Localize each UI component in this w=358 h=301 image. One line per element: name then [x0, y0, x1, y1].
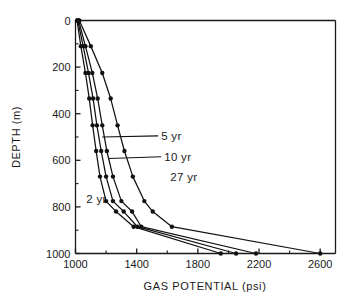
marker-10-yr	[254, 251, 258, 255]
marker-2-yr	[114, 209, 118, 213]
y-tick-label: 1000	[46, 248, 70, 260]
y-tick-label: 800	[52, 201, 70, 213]
leader-line-5-yr	[102, 136, 158, 137]
y-tick-label: 0	[64, 15, 70, 27]
chart-canvas: 10001400180022002600 02004006008001000 5…	[0, 0, 358, 301]
marker-27-yr	[77, 18, 81, 22]
series-annotations: 5 yr10 yr27 yr2 yr	[86, 130, 197, 205]
marker-10-yr	[100, 123, 104, 127]
marker-2-yr	[131, 225, 135, 229]
marker-27-yr	[151, 209, 155, 213]
x-axis-tick-labels: 10001400180022002600	[63, 258, 332, 270]
marker-10-yr	[130, 209, 134, 213]
marker-5-yr	[121, 209, 125, 213]
marker-27-yr	[318, 251, 322, 255]
series-line-5-yr	[78, 21, 236, 254]
series-annotation-5-yr: 5 yr	[161, 130, 181, 142]
series-annotation-2-yr: 2 yr	[86, 193, 106, 205]
marker-5-yr	[135, 225, 139, 229]
marker-2-yr	[98, 174, 102, 178]
marker-2-yr	[219, 251, 223, 255]
marker-5-yr	[104, 174, 108, 178]
x-axis-title: GAS POTENTIAL (psi)	[144, 280, 267, 292]
marker-27-yr	[122, 149, 126, 153]
series-annotation-27-yr: 27 yr	[170, 171, 197, 183]
x-axis-ticks	[76, 249, 321, 254]
marker-10-yr	[119, 199, 123, 203]
y-tick-label: 200	[52, 61, 70, 73]
x-tick-label: 1400	[124, 258, 148, 270]
marker-27-yr	[100, 71, 104, 75]
marker-27-yr	[115, 123, 119, 127]
marker-10-yr	[95, 96, 99, 100]
y-axis-ticks	[76, 21, 81, 254]
marker-10-yr	[105, 149, 109, 153]
marker-27-yr	[89, 44, 93, 48]
marker-27-yr	[108, 96, 112, 100]
marker-27-yr	[131, 174, 135, 178]
y-axis-tick-labels: 02004006008001000	[46, 15, 70, 260]
x-tick-label: 2200	[247, 258, 271, 270]
marker-27-yr	[170, 225, 174, 229]
gas-potential-depth-chart: 10001400180022002600 02004006008001000 5…	[0, 0, 358, 301]
marker-10-yr	[90, 71, 94, 75]
marker-10-yr	[83, 44, 87, 48]
leader-line-10-yr	[108, 157, 161, 159]
marker-5-yr	[99, 149, 103, 153]
marker-5-yr	[95, 123, 99, 127]
marker-10-yr	[139, 225, 143, 229]
series-annotation-10-yr: 10 yr	[164, 151, 191, 163]
y-axis-title: DEPTH (m)	[10, 106, 22, 168]
marker-27-yr	[142, 199, 146, 203]
x-tick-label: 2600	[308, 258, 332, 270]
annotation-leader-lines	[102, 136, 161, 159]
x-tick-label: 1800	[186, 258, 210, 270]
marker-2-yr	[94, 149, 98, 153]
marker-5-yr	[86, 71, 90, 75]
marker-5-yr	[91, 96, 95, 100]
marker-2-yr	[90, 123, 94, 127]
y-tick-label: 400	[52, 108, 70, 120]
y-tick-label: 600	[52, 154, 70, 166]
marker-5-yr	[234, 251, 238, 255]
marker-10-yr	[111, 174, 115, 178]
marker-5-yr	[111, 199, 115, 203]
marker-2-yr	[87, 96, 91, 100]
